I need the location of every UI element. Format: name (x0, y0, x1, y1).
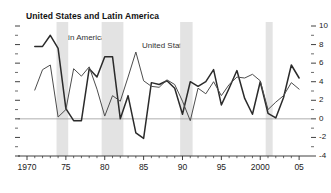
y-tick-label--2: -2 (319, 132, 326, 141)
y-tick-label-0: 0 (319, 114, 323, 123)
y-tick-label--4: -4 (319, 151, 326, 160)
x-tick-label-1975: 75 (61, 162, 70, 172)
x-tick-label-1980: 80 (100, 162, 109, 172)
x-tick-label-2000: 2000 (251, 162, 270, 172)
x-tick-label-1990: 90 (178, 162, 187, 172)
y-tick-label-2: 2 (319, 95, 323, 104)
y-tick-label-4: 4 (319, 77, 323, 86)
chart-plot-area (0, 0, 331, 193)
x-tick-label-2005: 05 (294, 162, 303, 172)
x-tick-label-1995: 95 (217, 162, 226, 172)
y-tick-label-6: 6 (319, 58, 323, 67)
recession-band-2 (102, 22, 124, 156)
y-tick-label-10: 10 (319, 21, 328, 30)
x-tick-label-1985: 85 (139, 162, 148, 172)
x-tick-label-1970: 1970 (18, 162, 37, 172)
chart-container: United States and Latin America Latin Am… (0, 0, 331, 193)
series-line-latin-america (35, 35, 299, 138)
y-tick-label-8: 8 (319, 40, 323, 49)
recession-band-3 (180, 22, 192, 156)
recession-band-4 (266, 22, 273, 156)
recession-band-1 (57, 22, 69, 156)
